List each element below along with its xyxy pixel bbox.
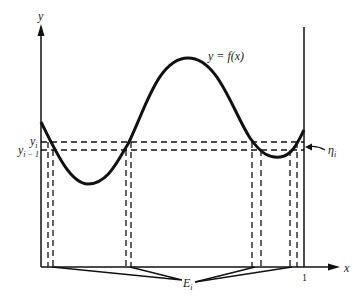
curve-label: y = f(x) [207,49,244,63]
y-axis-label: y [37,9,44,23]
y-i-label: yi [29,134,38,150]
E-i-label: Ei [182,276,193,292]
x-tick-1: 1 [302,272,307,283]
eta-i-label: ηi [328,143,336,159]
level-lines [41,142,304,150]
lebesgue-integral-diagram: y x y = f(x) yi yi − 1 ηi Ei 1 [0,0,364,301]
preimage-lines [48,142,297,267]
function-curve [41,58,304,184]
x-axis-label: x [343,261,350,275]
y-axis-arrow-icon [38,24,45,36]
eta-arrow [305,144,325,151]
x-axis-arrow-icon [328,264,340,271]
E-i-leaders [52,267,292,282]
